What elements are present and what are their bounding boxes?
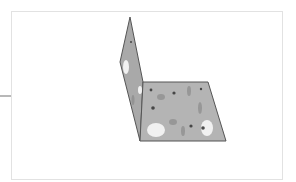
vertical-panel <box>120 17 143 141</box>
texture-light-blob <box>123 60 129 74</box>
texture-dark-mark <box>130 41 132 43</box>
texture-mid-mark <box>157 94 165 100</box>
texture-dark-mark <box>189 124 192 127</box>
texture-mid-mark <box>169 119 177 125</box>
texture-dark-mark <box>200 88 202 90</box>
texture-dark-mark <box>172 91 175 94</box>
texture-dark-mark <box>151 106 155 110</box>
folded-surface-diagram <box>0 0 296 182</box>
texture-mid-mark <box>181 126 185 136</box>
texture-mid-mark <box>198 102 202 114</box>
texture-dark-mark <box>150 89 153 92</box>
texture-mid-mark <box>132 95 135 105</box>
texture-dark-mark <box>201 126 205 130</box>
texture-mid-mark <box>187 86 191 96</box>
texture-light-blob <box>138 86 142 94</box>
texture-light-blob <box>147 123 165 137</box>
